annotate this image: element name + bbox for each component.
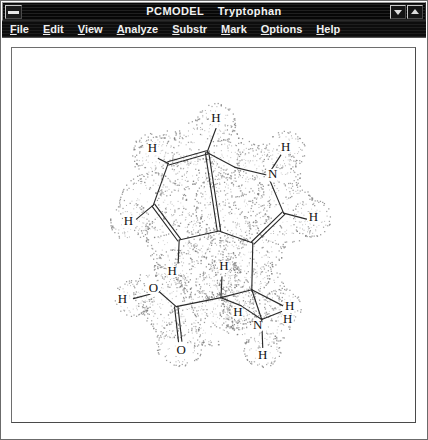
menu-bar-texture [2,21,426,37]
bond [175,307,179,342]
atom-label-h-n2c[interactable]: H [258,347,267,362]
atom-label-h-hydroxyl[interactable]: H [118,291,127,306]
atom-label-h-n2b[interactable]: H [283,311,292,326]
atom-label-h-c5[interactable]: H [148,140,157,155]
menu-item-file[interactable]: File [10,23,29,35]
bond [254,214,285,244]
bond [205,153,217,232]
atom-label-h-beta[interactable]: H [219,258,228,273]
atom-label-layer: HHHHNHHHOHHHHNHO [116,110,320,363]
atom-label-h-c2[interactable]: H [309,209,318,224]
menu-item-mark[interactable]: Mark [221,23,247,35]
menu-item-help[interactable]: Help [316,23,340,35]
atom-label-n-2[interactable]: N [253,317,263,332]
bond [155,204,181,239]
maximize-button[interactable] [407,5,423,19]
atom-label-o-carbonyl[interactable]: O [177,342,186,357]
atom-label-h-n1[interactable]: H [281,139,290,154]
molecule-canvas[interactable]: HHHHNHHHOHHHHNHO [11,47,416,423]
atom-label-n-1[interactable]: N [268,166,278,181]
bond [219,231,253,243]
menu-item-substr[interactable]: Substr [172,23,207,35]
pcmodel-window: PCMODEL Tryptophan File Edit View Analyz… [0,0,428,440]
menu-item-analyze[interactable]: Analyze [117,23,159,35]
menu-bar: File Edit View Analyze Substr Mark Optio… [2,21,426,38]
atom-label-h-alpha[interactable]: H [233,304,242,319]
minimize-button[interactable] [390,5,406,19]
atom-label-h-c6[interactable]: H [124,213,133,228]
menu-item-options[interactable]: Options [261,23,303,35]
bond [207,129,216,153]
bond [136,205,153,219]
menu-item-view[interactable]: View [78,23,103,35]
bond [179,231,219,240]
atom-label-h-c4[interactable]: H [211,110,220,125]
title-bar[interactable]: PCMODEL Tryptophan [2,2,426,21]
bond [176,298,221,307]
window-controls [390,5,423,19]
bond [159,292,176,307]
dot-surface-layer [110,103,331,368]
atom-label-o-hydroxyl[interactable]: O [149,280,158,295]
molecule-render[interactable]: HHHHNHHHOHHHHNHO [12,48,415,422]
bond [178,240,179,263]
minimize-arrow-icon [394,10,402,15]
bond [252,243,253,290]
menu-item-edit[interactable]: Edit [43,23,64,35]
window-title: PCMODEL Tryptophan [3,5,425,17]
atom-label-h-c7[interactable]: H [168,263,177,278]
maximize-arrow-icon [411,9,419,14]
bond [209,152,221,231]
